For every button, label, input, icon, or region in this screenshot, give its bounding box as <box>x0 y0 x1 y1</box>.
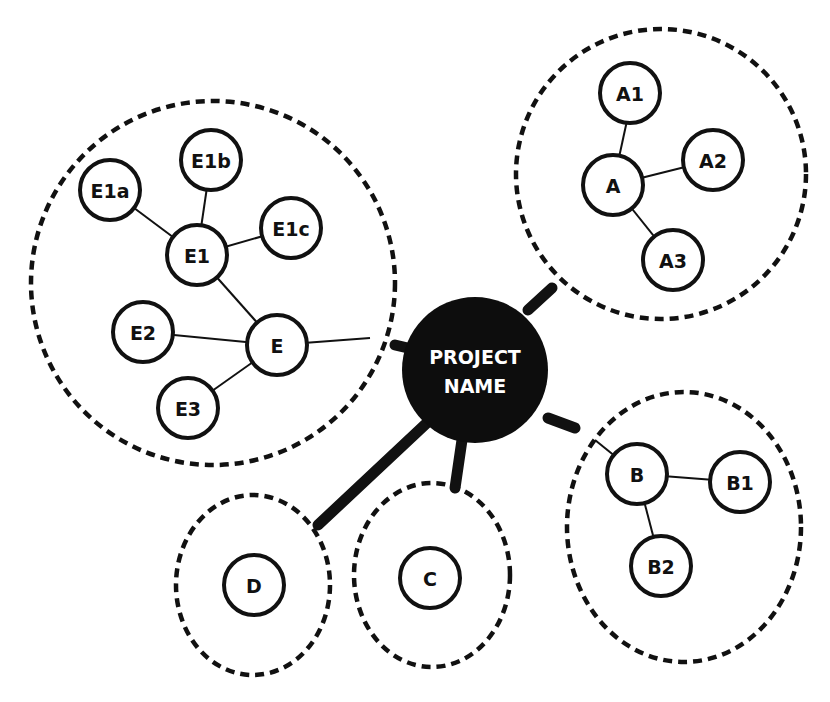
node-e1c[interactable]: E1c <box>261 198 321 258</box>
center-label-line2: NAME <box>444 375 507 397</box>
node-e[interactable]: E <box>247 315 307 375</box>
node-e1c-label: E1c <box>272 218 309 240</box>
node-b-label: B <box>630 464 644 486</box>
node-a2[interactable]: A2 <box>683 130 743 190</box>
node-e2-label: E2 <box>130 322 156 344</box>
connector-center-b <box>548 418 575 428</box>
node-e1a[interactable]: E1a <box>80 160 140 220</box>
center-label-line1: PROJECT <box>429 346 521 368</box>
node-e3[interactable]: E3 <box>158 378 218 438</box>
node-e2[interactable]: E2 <box>113 302 173 362</box>
connector-center-c <box>455 440 462 488</box>
node-e1b-label: E1b <box>191 150 231 172</box>
node-b2-label: B2 <box>647 556 675 578</box>
node-e3-label: E3 <box>175 398 201 420</box>
node-a-label: A <box>606 175 621 197</box>
node-e1-label: E1 <box>184 245 210 267</box>
cluster-b-boundary <box>567 392 801 662</box>
node-c-label: C <box>423 568 437 590</box>
node-b1[interactable]: B1 <box>710 452 770 512</box>
node-b2[interactable]: B2 <box>631 536 691 596</box>
node-d[interactable]: D <box>224 555 284 615</box>
node-a1[interactable]: A1 <box>600 63 660 123</box>
node-c[interactable]: C <box>400 548 460 608</box>
mind-map-diagram: PROJECT NAME E E1 E1a E1b E1c E2 E3 A A1… <box>0 0 830 702</box>
node-a3-label: A3 <box>659 250 687 272</box>
connector-center-a <box>528 288 552 310</box>
node-a[interactable]: A <box>583 155 643 215</box>
node-e1[interactable]: E1 <box>167 225 227 285</box>
node-a2-label: A2 <box>699 150 727 172</box>
connector-center-d <box>318 420 430 525</box>
center-node[interactable]: PROJECT NAME <box>402 297 548 443</box>
node-e1a-label: E1a <box>90 180 129 202</box>
node-e-label: E <box>271 335 284 357</box>
node-a3[interactable]: A3 <box>643 230 703 290</box>
center-node-circle <box>402 297 548 443</box>
node-e1b[interactable]: E1b <box>181 130 241 190</box>
node-a1-label: A1 <box>616 83 644 105</box>
node-b[interactable]: B <box>607 444 667 504</box>
node-d-label: D <box>246 575 262 597</box>
node-b1-label: B1 <box>726 472 754 494</box>
